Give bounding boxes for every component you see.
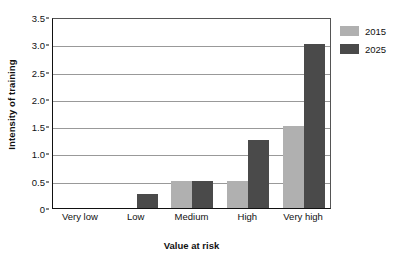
y-tick-mark <box>46 99 49 100</box>
y-tick-label: 2.0 <box>32 94 45 105</box>
legend-item-2015[interactable]: 2015 <box>340 22 398 40</box>
legend-swatch-2015 <box>340 26 359 36</box>
legend-label-2025: 2025 <box>365 44 386 55</box>
bar-2025-very-high <box>304 44 325 208</box>
y-tick-mark <box>46 45 49 46</box>
bar-group <box>109 19 165 208</box>
chart-legend: 20152025 <box>340 22 398 58</box>
y-tick-mark <box>46 154 49 155</box>
y-tick-mark <box>46 72 49 73</box>
y-tick-label: 1.5 <box>32 122 45 133</box>
y-tick-mark <box>46 18 49 19</box>
bar-group <box>220 19 276 208</box>
x-tick-label: Low <box>127 211 144 222</box>
y-tick-mark <box>46 209 49 210</box>
y-axis-tick-labels: 00.51.01.52.02.53.03.5 <box>22 18 49 209</box>
x-tick-label: Very high <box>283 211 323 222</box>
bars-layer <box>53 19 330 208</box>
x-tick-label: Medium <box>175 211 209 222</box>
bar-2015-very-high <box>283 126 304 208</box>
legend-swatch-2025 <box>340 44 359 54</box>
bar-2015-high <box>227 181 248 208</box>
legend-label-2015: 2015 <box>365 26 386 37</box>
bar-2015-medium <box>171 181 192 208</box>
y-tick-mark <box>46 127 49 128</box>
bar-2025-low <box>137 194 158 208</box>
y-tick-label: 3.5 <box>32 13 45 24</box>
y-axis-title: Intensity of training <box>0 0 22 209</box>
y-tick-label: 1.0 <box>32 149 45 160</box>
bar-group <box>53 19 109 208</box>
x-axis-tick-labels: Very lowLowMediumHighVery high <box>52 211 331 229</box>
plot-area <box>52 18 331 209</box>
y-tick-mark <box>46 181 49 182</box>
bar-group <box>276 19 332 208</box>
y-axis-title-text: Intensity of training <box>6 59 17 149</box>
x-axis-title: Value at risk <box>52 240 331 251</box>
x-tick-label: High <box>238 211 258 222</box>
legend-item-2025[interactable]: 2025 <box>340 40 398 58</box>
x-tick-label: Very low <box>62 211 98 222</box>
bar-2025-high <box>248 140 269 208</box>
bar-chart-figure: Intensity of training 00.51.01.52.02.53.… <box>0 0 400 261</box>
y-tick-label: 3.0 <box>32 40 45 51</box>
y-tick-label: 2.5 <box>32 67 45 78</box>
bar-group <box>165 19 221 208</box>
y-tick-label: 0 <box>40 204 45 215</box>
y-tick-label: 0.5 <box>32 176 45 187</box>
bar-2025-medium <box>192 181 213 208</box>
